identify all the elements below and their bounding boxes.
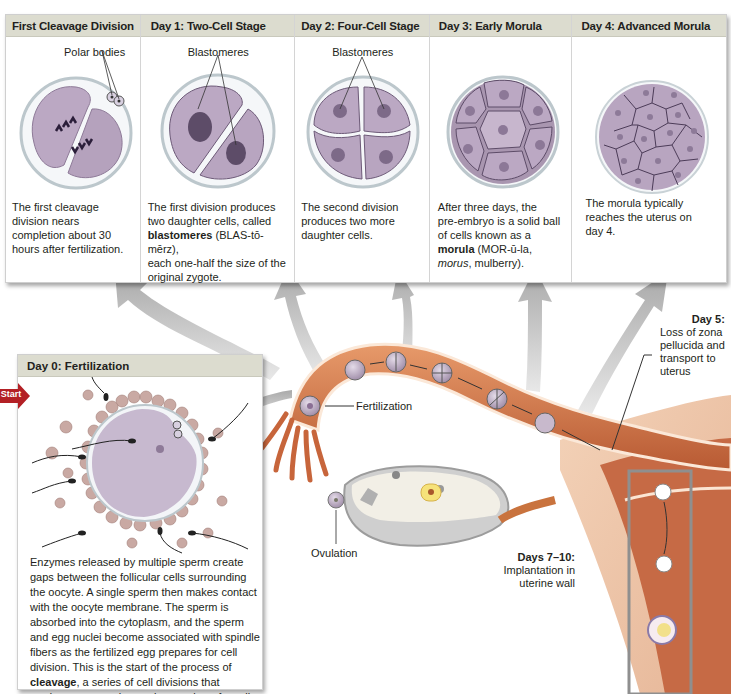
days7-10-annotation: Days 7–10: Implantation in uterine wall [500,551,575,590]
cleavage-stages-strip: First Cleavage Division Polar bodies The… [5,14,727,283]
term-cleavage: cleavage [30,676,76,688]
fertilization-label: Fertilization [356,400,412,413]
stage-title: Day 3: Early Morula [430,15,572,37]
early-morula-icon [444,73,562,191]
stage-description: After three days, the pre-embryo is a so… [438,200,560,270]
blastomeres-label: Blastomeres [332,46,393,58]
stage-title: Day 2: Four-Cell Stage [295,15,429,37]
stage-title: First Cleavage Division [6,15,140,37]
two-cell-embryo-icon [156,69,280,193]
stage-title: Day 1: Two-Cell Stage [141,15,295,37]
polar-bodies-label: Polar bodies [64,46,125,58]
fertilization-oocyte-icon [32,383,252,553]
stage-title: Day 4: Advanced Morula [572,15,726,37]
day0-description: Enzymes released by multiple sperm creat… [30,555,262,694]
stage-description: The morula typically reaches the uterus … [585,196,691,238]
ovulation-label: Ovulation [311,547,357,560]
stage-description: The first cleavage division nears comple… [12,200,123,256]
first-cleavage-cell-icon [16,73,136,191]
day5-annotation: Day 5: Loss of zona pellucida and transp… [660,313,725,378]
advanced-morula-icon [594,79,710,195]
stage-two-cell: Day 1: Two-Cell Stage Blastomeres The fi… [141,15,296,282]
day0-fertilization-panel: Day 0: Fertilization Enzymes released by… [17,354,263,690]
four-cell-embryo-icon [304,73,422,191]
stage-description: The first division produces two daughter… [148,200,295,284]
stage-first-cleavage: First Cleavage Division Polar bodies The… [6,15,141,282]
stage-advanced-morula: Day 4: Advanced Morula The morula typica… [572,15,726,282]
stage-early-morula: Day 3: Early Morula After three days, th… [430,15,573,282]
start-label: Start [0,389,22,399]
stage-four-cell: Day 2: Four-Cell Stage Blastomeres The s… [295,15,430,282]
day0-title: Day 0: Fertilization [18,355,262,377]
term-blastomeres: blastomeres [148,229,213,241]
stage-description: The second division produces two more da… [301,200,398,242]
term-morula: morula [438,243,475,255]
